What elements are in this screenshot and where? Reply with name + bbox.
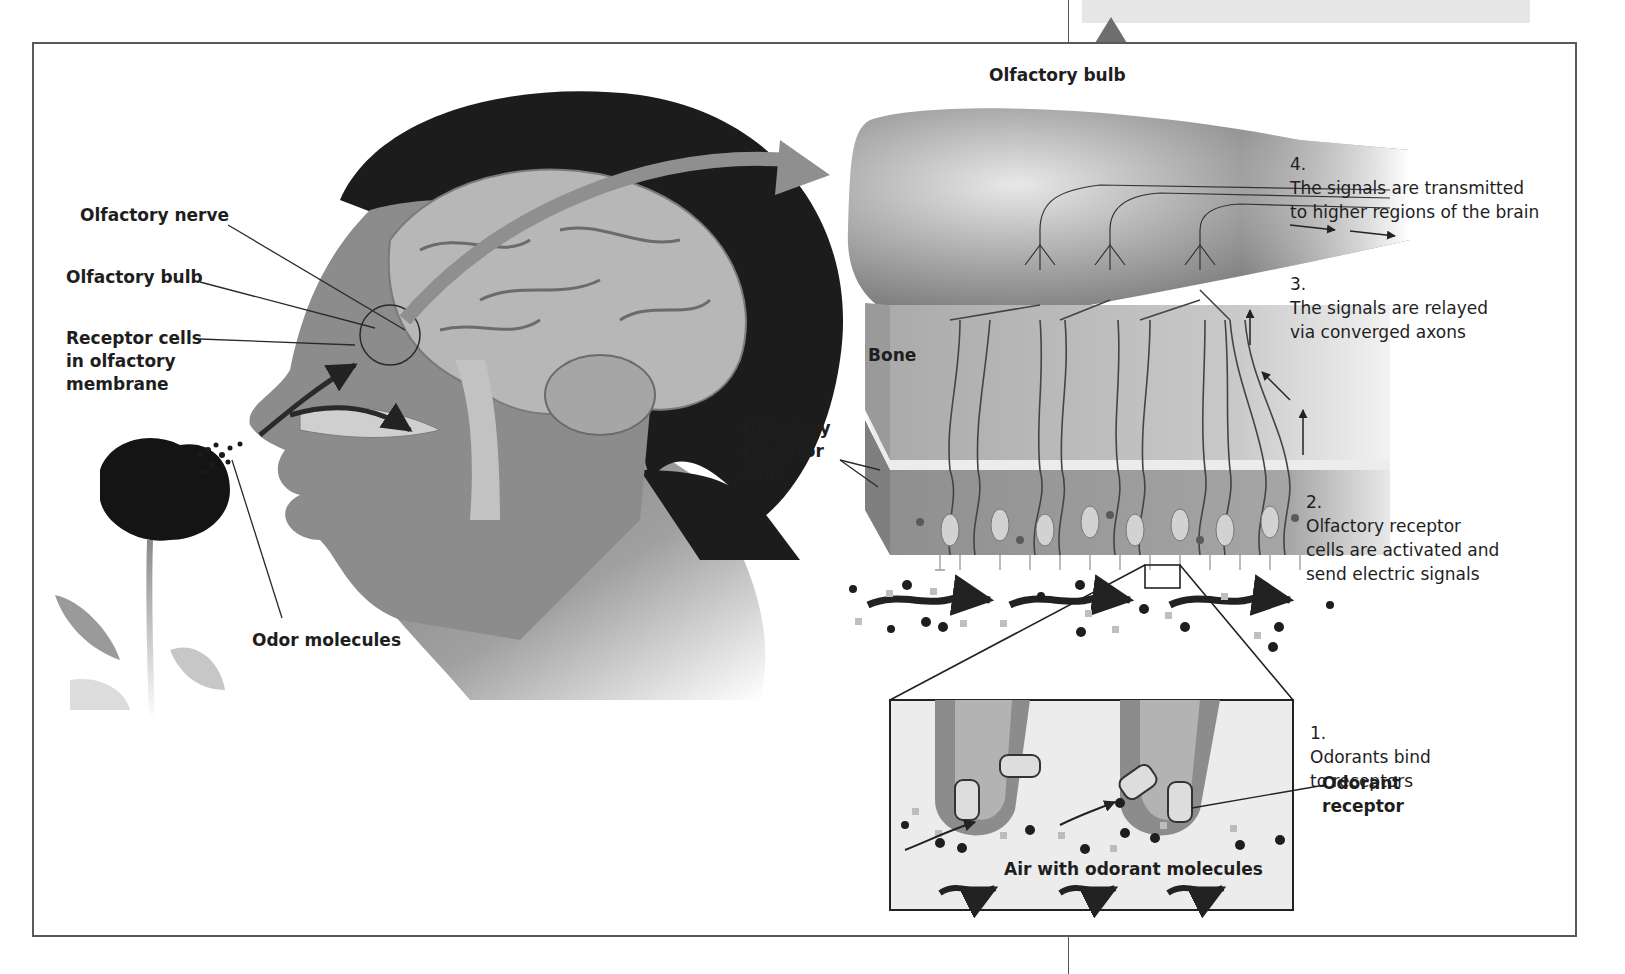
- step-4: 4. The signals are transmitted to higher…: [1290, 128, 1539, 224]
- label-olfactory-bulb-left: Olfactory bulb: [66, 266, 203, 289]
- label-receptor-cells: Receptor cells in olfactory membrane: [66, 327, 202, 396]
- step-2-text: Olfactory receptor cells are activated a…: [1306, 516, 1499, 584]
- step-1-number: 1.: [1310, 723, 1326, 743]
- step-4-number: 4.: [1290, 154, 1306, 174]
- rose-illustration: [55, 438, 230, 720]
- label-odor-molecules: Odor molecules: [252, 629, 401, 652]
- label-olfactory-bulb-right: Olfactory bulb: [989, 64, 1126, 87]
- step-1-text: Odorants bind to receptors: [1310, 747, 1431, 791]
- label-olfactory-nerve: Olfactory nerve: [80, 204, 229, 227]
- label-bone: Bone: [868, 344, 916, 367]
- step-3: 3. The signals are relayed via converged…: [1290, 248, 1488, 344]
- step-1: 1. Odorants bind to receptors: [1310, 697, 1431, 793]
- head-cross-section: [249, 91, 843, 700]
- step-2-number: 2.: [1306, 492, 1322, 512]
- label-olfactory-receptor-cells: Olfactory receptor cells: [742, 417, 831, 486]
- step-3-text: The signals are relayed via converged ax…: [1290, 298, 1488, 342]
- step-4-text: The signals are transmitted to higher re…: [1290, 178, 1539, 222]
- airflow-molecules: [849, 565, 1334, 700]
- label-air-with-odorant-molecules: Air with odorant molecules: [1004, 858, 1263, 881]
- step-3-number: 3.: [1290, 274, 1306, 294]
- step-2: 2. Olfactory receptor cells are activate…: [1306, 466, 1499, 586]
